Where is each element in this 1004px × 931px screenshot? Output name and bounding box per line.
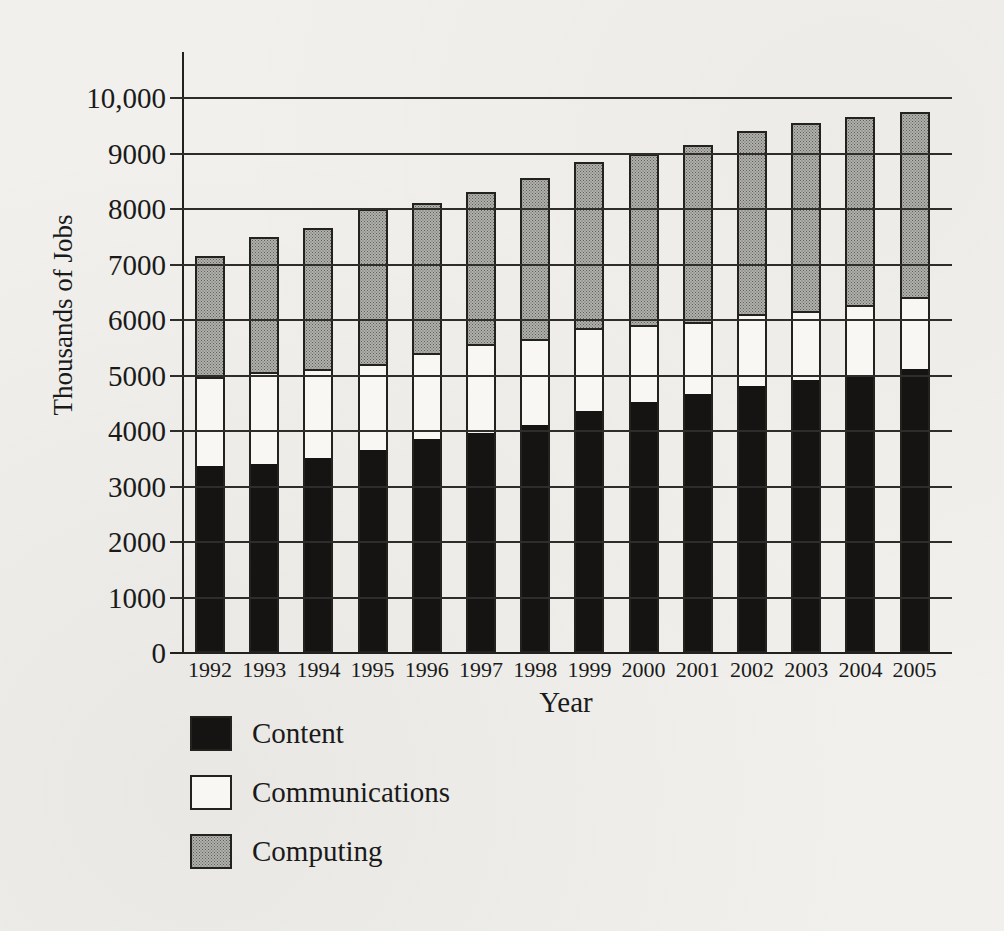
bar-segment-communications-1998 [522,339,548,425]
y-tick-label: 5000 [50,361,166,391]
computing-swatch-icon [190,834,232,869]
gridline-7000 [170,264,952,266]
gridline-1000 [170,597,952,599]
y-tick-label: 7000 [50,250,166,280]
bar-segment-content-1999 [576,411,602,651]
bar-1997 [466,192,496,653]
gridline-2000 [170,541,952,543]
gridline-8000 [170,208,952,210]
scanned-chart-page: Thousands of Jobs Year 01000200030004000… [0,0,1004,931]
y-tick-label: 9000 [50,139,166,169]
legend-row-computing: Computing [190,834,450,869]
bar-segment-computing-1996 [414,205,440,352]
bar-segment-computing-1992 [197,258,223,377]
bar-2001 [683,145,713,653]
bar-1999 [574,162,604,653]
bar-segment-content-2003 [793,380,819,651]
bar-segment-computing-1997 [468,194,494,344]
bar-segment-communications-1997 [468,344,494,433]
gridline-4000 [170,430,952,432]
y-tick-label: 0 [50,638,166,668]
bar-2000 [629,154,659,654]
bar-segment-content-2005 [902,369,928,651]
bar-segment-computing-1998 [522,180,548,338]
bar-segment-computing-2002 [739,133,765,313]
bar-segment-computing-1999 [576,164,602,328]
bar-segment-computing-1995 [360,211,386,364]
bar-segment-content-1992 [197,466,223,651]
bar-segment-content-1998 [522,425,548,651]
y-axis-line [182,52,184,653]
bar-segment-content-2000 [631,402,657,651]
gridline-10000 [170,97,952,99]
gridline-5000 [170,375,952,377]
bar-segment-communications-2005 [902,297,928,369]
y-tick-label: 6000 [50,305,166,335]
legend-label-content: Content [252,717,344,750]
bar-segment-communications-1999 [576,328,602,411]
bar-segment-communications-1992 [197,377,223,466]
bar-2003 [791,123,821,653]
bar-segment-communications-2004 [847,305,873,374]
x-axis-title: Year [466,686,666,719]
bar-segment-content-1993 [251,464,277,652]
gridline-3000 [170,486,952,488]
x-tick-label-2005: 2005 [880,657,950,683]
bar-2004 [845,117,875,653]
y-tick-label: 8000 [50,194,166,224]
y-tick-label: 10,000 [50,83,166,113]
bar-segment-computing-1993 [251,239,277,372]
y-tick-label: 3000 [50,472,166,502]
legend-label-communications: Communications [252,776,450,809]
bar-segment-communications-2001 [685,322,711,394]
bar-1992 [195,256,225,653]
legend: Content Communications Computing [190,716,450,893]
bar-segment-content-1995 [360,450,386,651]
y-tick-label: 4000 [50,416,166,446]
bar-1996 [412,203,442,653]
bar-segment-computing-2001 [685,147,711,322]
bar-segment-computing-1994 [305,230,331,369]
bar-segment-computing-2004 [847,119,873,305]
bar-segment-content-2004 [847,375,873,651]
gridline-0 [170,652,952,654]
gridline-9000 [170,153,952,155]
bar-1998 [520,178,550,653]
bar-segment-content-2002 [739,386,765,651]
communications-swatch-icon [190,775,232,810]
bar-segment-communications-1994 [305,369,331,458]
legend-label-computing: Computing [252,835,383,868]
bar-segment-content-1996 [414,439,440,651]
content-swatch-icon [190,716,232,751]
bar-segment-communications-2003 [793,311,819,380]
bar-segment-computing-2005 [902,114,928,297]
gridline-6000 [170,319,952,321]
bar-segment-communications-1995 [360,364,386,450]
bar-segment-computing-2000 [631,156,657,325]
bar-segment-communications-2000 [631,325,657,403]
bar-segment-content-2001 [685,394,711,651]
legend-row-content: Content [190,716,450,751]
bar-2005 [900,112,930,653]
y-tick-label: 2000 [50,527,166,557]
legend-row-communications: Communications [190,775,450,810]
bar-segment-communications-1996 [414,353,440,439]
bar-1994 [303,228,333,653]
y-tick-label: 1000 [50,583,166,613]
bar-1993 [249,237,279,653]
bar-segment-communications-1993 [251,372,277,464]
